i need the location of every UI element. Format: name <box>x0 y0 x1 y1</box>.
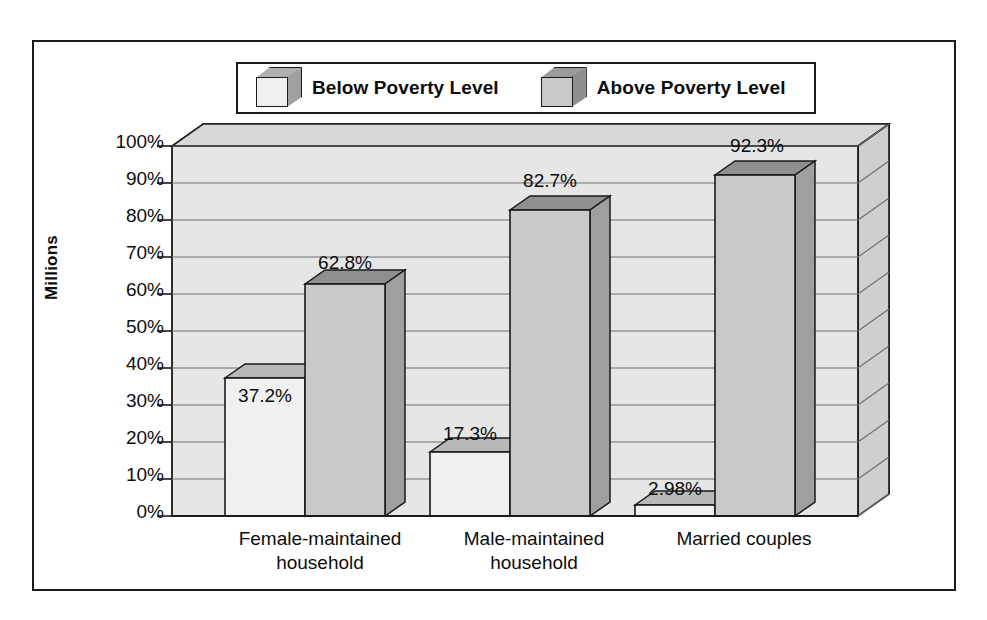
legend-label-above-poverty-level: Above Poverty Level <box>597 77 786 99</box>
x-category-female-maintained-household: Female-maintained household <box>210 527 430 575</box>
value-label-g1-below: 37.2% <box>205 385 325 407</box>
value-label-g2-below: 17.3% <box>410 423 530 445</box>
bar-chart-figure: 100% 90% 80% 70% 60% 50% 40% 30% 20% 10%… <box>0 0 987 620</box>
x-axis-category-labels: Female-maintained household Male-maintai… <box>172 527 892 587</box>
chart-legend: Below Poverty Level Above Poverty Level <box>236 62 816 114</box>
value-label-g2-above: 82.7% <box>490 170 610 192</box>
legend-item-below-poverty-level[interactable]: Below Poverty Level <box>256 67 499 109</box>
x-category-male-maintained-household: Male-maintained household <box>434 527 634 575</box>
cube-icon <box>541 67 587 109</box>
x-category-married-couples: Married couples <box>634 527 854 551</box>
value-label-g3-below: 2.98% <box>613 478 737 500</box>
value-label-g1-above: 62.8% <box>285 252 405 274</box>
cube-icon <box>256 67 302 109</box>
legend-label-below-poverty-level: Below Poverty Level <box>312 77 499 99</box>
value-label-g3-above: 92.3% <box>697 135 817 157</box>
legend-item-above-poverty-level[interactable]: Above Poverty Level <box>541 67 786 109</box>
